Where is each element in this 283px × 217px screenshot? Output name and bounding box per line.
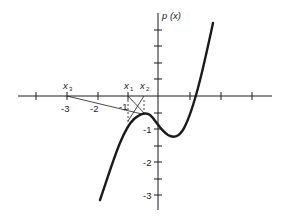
x-tick-label-neg3: -3 [61, 103, 69, 114]
svg-text:x: x [62, 80, 69, 91]
svg-text:1: 1 [130, 86, 134, 92]
cubic-secant-diagram: p (x) -3 -2 -1 -1 -2 -3 x 3 x 1 x 2 [0, 0, 283, 217]
x-tick-label-neg1: -1 [119, 101, 127, 112]
svg-text:x: x [139, 80, 146, 91]
y-tick-label-neg1: -1 [143, 124, 151, 135]
cubic-curve [100, 23, 213, 200]
svg-text:3: 3 [69, 86, 73, 92]
iterate-label-x2: x 2 [139, 80, 150, 92]
iterate-label-x3: x 3 [62, 80, 73, 92]
x-tick-label-neg2: -2 [90, 103, 98, 114]
iterate-label-x1: x 1 [123, 80, 134, 92]
svg-text:2: 2 [146, 86, 150, 92]
y-tick-label-neg3: -3 [143, 190, 151, 201]
y-axis-label: p (x) [161, 10, 181, 21]
svg-text:x: x [123, 80, 130, 91]
y-tick-label-neg2: -2 [143, 157, 151, 168]
